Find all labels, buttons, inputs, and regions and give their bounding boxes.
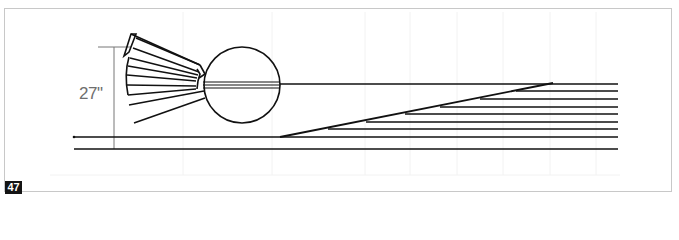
figure-number-badge: 47 <box>5 181 22 194</box>
turntable-bridge <box>203 82 280 88</box>
yard-tracks <box>328 91 618 129</box>
main-tracks <box>74 137 618 149</box>
dimension-label: 27" <box>79 84 102 104</box>
dimension-line <box>98 47 131 149</box>
track-end-dot <box>73 136 76 139</box>
radial-tracks <box>129 91 205 123</box>
roundhouse <box>124 34 205 95</box>
